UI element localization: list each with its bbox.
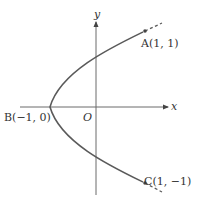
y-axis-label: y (93, 8, 101, 21)
point-c-label: C(1, −1) (144, 175, 191, 188)
point-a-marker (143, 29, 147, 33)
origin-label: O (83, 111, 92, 124)
point-a-label: A(1, 1) (140, 37, 179, 50)
x-axis-label: x (171, 100, 178, 113)
point-b-label: B(−1, 0) (4, 111, 51, 124)
parabola-diagram: y x O A(1, 1) B(−1, 0) C(1, −1) (0, 0, 197, 206)
dashed-extension-top (145, 23, 162, 31)
